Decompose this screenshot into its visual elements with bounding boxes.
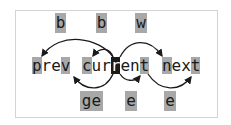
arrow-b-prev <box>42 39 113 57</box>
char: r <box>42 57 52 74</box>
word-prev: p r e v <box>32 57 70 74</box>
char: t <box>140 57 150 74</box>
char: n <box>130 57 140 74</box>
label-ge-prev: ge <box>80 91 103 111</box>
char: t <box>191 57 201 74</box>
arrow-e-next <box>148 74 191 88</box>
char: e <box>172 57 182 74</box>
char: v <box>61 57 71 74</box>
char: e <box>120 57 130 74</box>
arrow-w-next <box>120 43 162 57</box>
label-e-next: e <box>164 91 176 111</box>
char: r <box>101 57 111 74</box>
char: u <box>92 57 102 74</box>
label-b-prev: b <box>55 13 66 33</box>
word-current: c u r r e n t <box>82 57 149 74</box>
cursor-char: r <box>111 57 121 74</box>
char: n <box>162 57 172 74</box>
label-b-current: b <box>96 13 107 33</box>
arrow-ge-prev <box>74 74 113 88</box>
char: c <box>82 57 92 74</box>
label-w-next: w <box>135 13 147 33</box>
char: e <box>51 57 61 74</box>
label-e-current: e <box>125 91 137 111</box>
word-next: n e x t <box>162 57 200 74</box>
char: p <box>32 57 42 74</box>
char: x <box>181 57 191 74</box>
